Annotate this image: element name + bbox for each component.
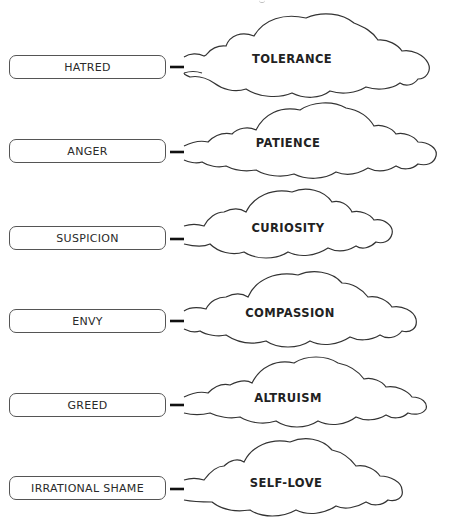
source-box-hatred: HATRED	[9, 55, 166, 79]
target-label: COMPASSION	[245, 306, 335, 320]
target-cloud-curiosity: CURIOSITY	[182, 186, 394, 264]
source-box-irrational-shame: IRRATIONAL SHAME	[9, 476, 166, 500]
target-cloud-compassion: COMPASSION	[182, 269, 422, 351]
source-label: SUSPICION	[56, 232, 118, 245]
source-label: HATRED	[64, 61, 111, 74]
target-label: PATIENCE	[256, 136, 320, 150]
source-label: ANGER	[67, 145, 107, 158]
target-cloud-self-love: SELF-LOVE	[182, 436, 412, 520]
source-box-anger: ANGER	[9, 139, 166, 163]
source-box-envy: ENVY	[9, 309, 166, 333]
target-cloud-patience: PATIENCE	[182, 100, 438, 180]
target-label: TOLERANCE	[252, 52, 332, 66]
target-label: SELF-LOVE	[250, 476, 322, 490]
source-label: IRRATIONAL SHAME	[31, 482, 144, 495]
target-cloud-altruism: ALTRUISM	[182, 353, 428, 431]
target-cloud-tolerance: TOLERANCE	[182, 13, 432, 99]
source-label: GREED	[67, 399, 107, 412]
source-box-suspicion: SUSPICION	[9, 226, 166, 250]
target-label: ALTRUISM	[254, 391, 322, 405]
source-label: ENVY	[72, 315, 103, 328]
target-label: CURIOSITY	[251, 221, 324, 235]
cropped-title-fragment	[259, 0, 265, 3]
source-box-greed: GREED	[9, 393, 166, 417]
